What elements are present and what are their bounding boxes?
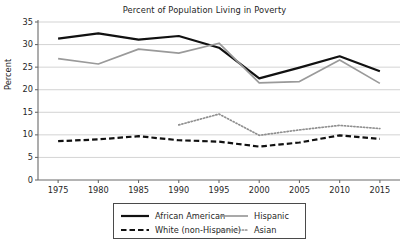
poverty-line-chart: Percent of Population Living in Poverty … bbox=[0, 0, 409, 248]
legend-item: Asian bbox=[219, 224, 276, 236]
series-line bbox=[58, 33, 380, 78]
legend-swatch-dotted bbox=[219, 225, 249, 235]
legend-item: African American bbox=[120, 210, 225, 222]
legend-swatch-dashed bbox=[120, 225, 150, 235]
series-line bbox=[179, 114, 380, 135]
legend-label: Asian bbox=[254, 226, 276, 234]
series-line bbox=[58, 43, 380, 83]
series-line bbox=[58, 135, 380, 146]
legend-label: African American bbox=[155, 212, 225, 220]
chart-legend: African AmericanHispanicWhite (non-Hispa… bbox=[113, 203, 306, 239]
legend-swatch-solid bbox=[120, 211, 150, 221]
legend-label: Hispanic bbox=[254, 212, 289, 220]
legend-swatch-solid bbox=[219, 211, 249, 221]
legend-item: Hispanic bbox=[219, 210, 289, 222]
